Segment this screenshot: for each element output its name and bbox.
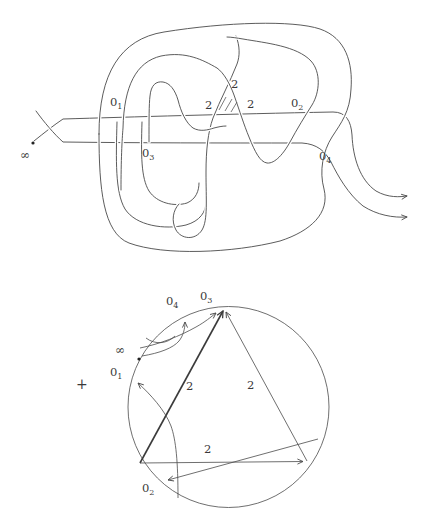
knot-diagram: 01 02 03 04 ∞ 2 2 2 (20, 23, 407, 251)
chord-label-infinity: ∞ (115, 343, 125, 357)
knot-label-o4: 04 (319, 149, 331, 165)
chord-label-o1: 01 (110, 365, 122, 381)
chord-label-two-left: 2 (186, 379, 193, 393)
chord-label-o3: 03 (200, 289, 212, 305)
infinity-basepoint-dot (31, 141, 34, 144)
figure-page: 01 02 03 04 ∞ 2 2 2 + (0, 0, 438, 523)
knot-central-loop (173, 36, 239, 238)
knot-label-two-left: 2 (205, 98, 212, 112)
plus-sign: + (76, 376, 88, 392)
knot-and-chord-diagram: 01 02 03 04 ∞ 2 2 2 + (0, 0, 438, 523)
chord-label-o2: 02 (142, 481, 154, 497)
chord-label-two-right: 2 (247, 378, 254, 392)
chord-infinity-dot (137, 357, 140, 360)
boundary-circle (128, 307, 329, 508)
edge-bl-to-o3 (140, 311, 223, 463)
edge-bl-to-right (140, 462, 303, 464)
knot-label-o1: 01 (110, 95, 122, 111)
chord-label-o4: 04 (166, 294, 178, 310)
knot-label-infinity: ∞ (20, 148, 30, 162)
edge-to-o2 (168, 439, 318, 480)
knot-label-two-right: 2 (247, 97, 254, 111)
chord-diagram: + 03 04 ∞ 01 02 2 2 2 (76, 289, 329, 508)
arc-lens (146, 336, 175, 343)
knot-label-o3: 03 (142, 146, 154, 162)
edge-right-to-o3 (226, 312, 307, 461)
knot-hairpin-outer (116, 122, 206, 227)
knot-outer-loop (99, 23, 351, 251)
chord-label-two-bottom: 2 (204, 442, 211, 456)
knot-label-two-top: 2 (231, 77, 238, 91)
knot-label-o2: 02 (291, 96, 303, 112)
arc-to-o4 (142, 322, 185, 356)
knot-strand-upper-bridge (34, 112, 407, 197)
